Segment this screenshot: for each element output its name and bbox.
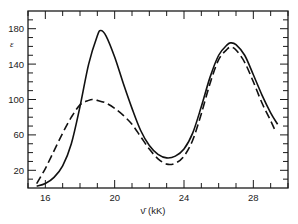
y-tick-label: 20 [13,165,24,176]
y-tick-label: 100 [8,94,24,105]
x-tick-label: 20 [109,192,120,203]
curves [37,30,278,186]
axis-ticks [28,11,288,188]
y-tick-label: 180 [8,23,24,34]
x-tick-label: 28 [248,192,259,203]
x-axis-label: ν̄ (kK) [141,205,166,216]
y-tick-label: 140 [8,59,24,70]
y-axis-label: ε [10,39,14,49]
solid-curve [37,30,278,186]
x-tick-label: 16 [40,192,51,203]
x-tick-label: 24 [179,192,190,203]
dashed-curve [37,47,276,183]
y-tick-label: 60 [13,129,24,140]
absorption-spectrum-chart: 162024282060100140180 ε ν̄ (kK) [0,0,298,224]
plot-frame [28,11,288,188]
